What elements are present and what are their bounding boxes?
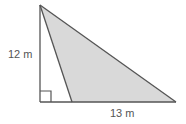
- right-angle-marker: [40, 91, 51, 102]
- triangle-diagram: 12 m 13 m: [0, 0, 186, 124]
- base-label: 13 m: [110, 107, 134, 119]
- height-label: 12 m: [8, 48, 32, 60]
